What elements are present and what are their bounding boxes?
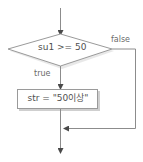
flowchart-canvas	[0, 0, 143, 162]
false-label: false	[111, 36, 130, 44]
process-statement: str = "50이상"	[18, 94, 98, 103]
true-label: true	[34, 70, 50, 78]
decision-condition: su1 >= 50	[38, 43, 84, 52]
